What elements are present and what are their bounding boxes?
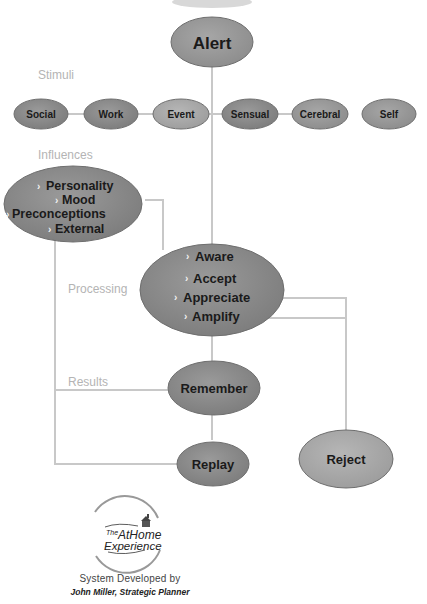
node-remember-label: Remember [180,381,247,396]
processing-item: Amplify [192,309,240,324]
chevron-right-icon: › [37,181,40,192]
section-label-stimuli: Stimuli [38,68,74,82]
stimulus-node-sensual[interactable]: Sensual [222,99,278,129]
stimulus-label: Cerebral [300,109,341,120]
connector-influences-processing [145,200,163,250]
logo: The AtHome Experience [95,496,162,573]
logo-flourish-top [105,524,138,527]
stimulus-node-work[interactable]: Work [84,99,138,129]
stimulus-label: Sensual [231,109,270,120]
stimulus-node-social[interactable]: Social [14,99,68,129]
chevron-right-icon: › [55,195,58,206]
section-label-results: Results [68,375,108,389]
influence-item: Preconceptions [12,207,106,221]
section-label-processing: Processing [68,282,127,296]
logo-text-the: The [106,529,118,536]
processing-item: Accept [193,271,237,286]
chevron-right-icon: › [6,209,9,220]
credit-line-2: John Miller, Strategic Planner [0,587,260,597]
node-reject[interactable]: Reject [299,430,393,488]
stimulus-node-cerebral[interactable]: Cerebral [292,99,348,129]
influence-item: External [55,222,104,236]
chevron-right-icon: › [185,273,188,284]
stimulus-label: Event [167,109,195,120]
stimulus-label: Social [26,109,56,120]
section-label-influences: Influences [38,148,93,162]
influence-item: Mood [62,193,95,207]
node-processing[interactable]: › Aware › Accept › Appreciate › Amplify [140,244,284,336]
node-alert-label: Alert [193,34,232,53]
node-remember[interactable]: Remember [168,361,260,415]
node-influences[interactable]: › Personality › Mood › Preconceptions › … [4,166,142,242]
node-reject-label: Reject [326,452,366,467]
processing-item: Aware [195,249,234,264]
node-replay-label: Replay [192,457,235,472]
stimulus-node-event[interactable]: Event [153,99,209,129]
stimulus-label: Self [380,109,399,120]
node-alert[interactable]: Alert [171,17,253,67]
diagram-canvas: Alert Stimuli Influences Processing Resu… [0,0,427,604]
node-replay[interactable]: Replay [177,442,249,486]
influence-item: Personality [46,179,113,193]
house-icon [141,514,151,527]
cropped-remnant [172,0,252,8]
stimulus-node-self[interactable]: Self [362,99,416,129]
chevron-right-icon: › [48,224,51,235]
processing-item: Appreciate [183,290,250,305]
logo-text-experience: Experience [104,540,162,552]
chevron-right-icon: › [186,251,189,262]
chevron-right-icon: › [184,311,187,322]
stimulus-label: Work [99,109,124,120]
credit-line-1: System Developed by [0,573,260,584]
chevron-right-icon: › [174,292,177,303]
